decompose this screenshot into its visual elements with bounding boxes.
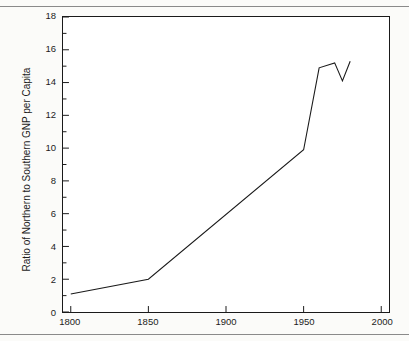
x-tick-label: 1950 (294, 317, 315, 327)
y-axis-label: Ratio of Northern to Southern GNP per Ca… (21, 40, 32, 300)
y-tick-label: 6 (51, 209, 56, 219)
x-tick-label: 1800 (59, 317, 80, 327)
y-tick-label: 0 (51, 308, 56, 318)
data-series-line (71, 61, 350, 294)
y-tick-label: 2 (51, 275, 56, 285)
figure-page: 024681012141618 18001850190019502000 Rat… (0, 0, 409, 341)
y-tick-label: 12 (45, 110, 56, 120)
y-tick-label: 10 (45, 143, 56, 153)
x-tick-label: 2000 (372, 317, 393, 327)
y-tick-label: 14 (45, 77, 56, 87)
x-tick-label: 1850 (137, 317, 158, 327)
x-tick-label: 1900 (215, 317, 236, 327)
y-tick-label: 8 (51, 176, 56, 186)
plot-canvas (63, 17, 389, 312)
y-tick-label: 16 (45, 44, 56, 54)
y-tick-label: 4 (51, 242, 56, 252)
line-chart-figure: 024681012141618 18001850190019502000 Rat… (0, 0, 409, 341)
axis-tick-marks (63, 17, 381, 312)
y-tick-label: 18 (45, 11, 56, 21)
plot-area (62, 16, 390, 313)
